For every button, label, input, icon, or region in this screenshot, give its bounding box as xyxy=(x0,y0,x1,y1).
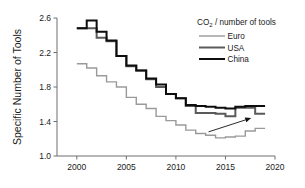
y-axis-ticks xyxy=(54,18,58,156)
chart-figure: 1.01.41.82.22.6 20002005201020152020 Spe… xyxy=(0,0,305,188)
y-tick-label: 2.6 xyxy=(39,13,51,23)
x-axis-ticks xyxy=(77,156,275,160)
x-tick-label: 2010 xyxy=(166,162,185,172)
chart-plot-svg: 1.01.41.82.22.6 20002005201020152020 Spe… xyxy=(0,0,305,188)
y-tick-label: 1.0 xyxy=(39,151,51,161)
series-line-euro xyxy=(77,64,265,138)
x-tick-label: 2020 xyxy=(266,162,285,172)
y-tick-label: 2.2 xyxy=(39,48,51,58)
y-tick-label: 1.8 xyxy=(39,82,51,92)
x-tick-label: 2015 xyxy=(216,162,235,172)
chart-legend: CO2 / number of tools EuroUSAChina xyxy=(197,18,276,64)
y-axis-title: Specific Number of Tools xyxy=(11,29,23,145)
trend-arrow-shaft xyxy=(209,120,246,132)
x-axis-tick-labels: 20002005201020152020 xyxy=(67,162,284,172)
legend-label-euro: Euro xyxy=(228,32,246,41)
annotation-group xyxy=(209,117,252,131)
legend-title-main: CO xyxy=(197,18,209,27)
x-tick-label: 2000 xyxy=(67,162,86,172)
legend-label-china: China xyxy=(228,55,250,64)
legend-entries: EuroUSAChina xyxy=(199,32,249,64)
y-tick-label: 1.4 xyxy=(39,117,51,127)
legend-label-usa: USA xyxy=(228,44,245,53)
legend-title: CO2 / number of tools xyxy=(197,18,276,28)
x-tick-label: 2005 xyxy=(117,162,136,172)
y-axis-tick-labels: 1.01.41.82.22.6 xyxy=(39,13,51,161)
trend-arrow-head xyxy=(245,117,252,122)
series-line-usa xyxy=(77,28,265,116)
legend-title-rest: / number of tools xyxy=(213,18,276,27)
